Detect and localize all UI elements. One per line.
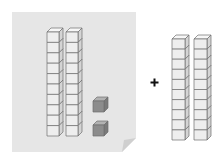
- unit-cell: [172, 100, 185, 110]
- unit-cell: [194, 120, 207, 130]
- unit-cell: [47, 63, 59, 73]
- unit-cell: [172, 59, 185, 69]
- unit-cell: [47, 42, 59, 52]
- unit-cell: [172, 69, 185, 79]
- tens-rod: [172, 35, 189, 140]
- unit-cell: [47, 115, 59, 125]
- unit-cell: [194, 90, 207, 100]
- unit-cell: [194, 59, 207, 69]
- unit-cell: [172, 49, 185, 59]
- unit-cell: [47, 53, 59, 63]
- plus-operator-icon: [151, 79, 159, 87]
- ones-cube: [93, 97, 108, 112]
- unit-cell: [194, 39, 207, 49]
- unit-cell: [66, 115, 78, 125]
- unit-cell: [194, 100, 207, 110]
- unit-cell: [66, 53, 78, 63]
- tens-rod: [47, 28, 63, 136]
- folded-corner-icon: [122, 138, 136, 152]
- unit-cell: [172, 79, 185, 89]
- unit-cell: [172, 120, 185, 130]
- unit-cell: [47, 84, 59, 94]
- unit-cell: [194, 69, 207, 79]
- tens-rod: [66, 28, 82, 136]
- unit-cell: [172, 110, 185, 120]
- unit-cell: [66, 74, 78, 84]
- unit-cell: [47, 74, 59, 84]
- base-ten-diagram: [0, 0, 220, 167]
- unit-cell: [66, 32, 78, 42]
- ones-cube: [93, 121, 108, 136]
- unit-cell: [66, 42, 78, 52]
- unit-cell: [194, 130, 207, 140]
- tens-rod: [194, 35, 211, 140]
- unit-cell: [194, 110, 207, 120]
- unit-cell: [47, 105, 59, 115]
- unit-cell: [66, 94, 78, 104]
- unit-cell: [66, 105, 78, 115]
- unit-cell: [172, 130, 185, 140]
- unit-cell: [194, 49, 207, 59]
- unit-cell: [172, 90, 185, 100]
- right-tens-rods: [172, 35, 211, 140]
- unit-cell: [66, 63, 78, 73]
- unit-cell: [194, 79, 207, 89]
- unit-cell: [172, 39, 185, 49]
- unit-cell: [47, 94, 59, 104]
- unit-cell: [47, 32, 59, 42]
- unit-cell: [66, 126, 78, 136]
- unit-cell: [47, 126, 59, 136]
- unit-cell: [66, 84, 78, 94]
